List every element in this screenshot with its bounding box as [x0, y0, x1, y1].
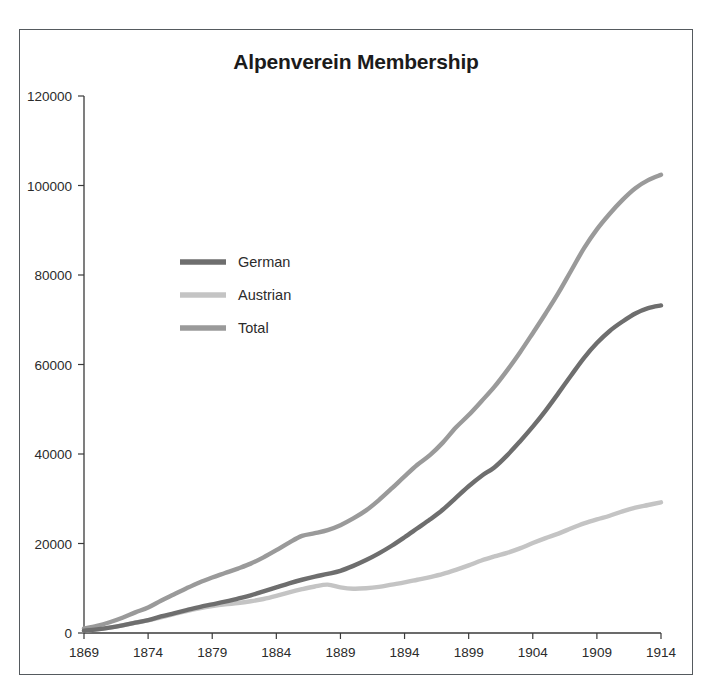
x-tick-label: 1909 [582, 645, 612, 660]
x-tick-label: 1874 [133, 645, 164, 660]
y-tick-label: 120000 [27, 89, 72, 104]
x-axis-ticks: 1869187418791884188918941899190419091914 [69, 633, 677, 660]
axes [84, 96, 661, 633]
chart-legend: GermanAustrianTotal [180, 254, 291, 336]
x-tick-label: 1884 [261, 645, 292, 660]
x-tick-label: 1879 [197, 645, 227, 660]
x-tick-label: 1914 [646, 645, 677, 660]
y-tick-label: 40000 [34, 447, 72, 462]
legend-label-german: German [238, 254, 290, 270]
series-line-austrian [84, 502, 661, 630]
x-tick-label: 1869 [69, 645, 99, 660]
y-tick-label: 20000 [34, 537, 72, 552]
x-tick-label: 1899 [454, 645, 484, 660]
data-series-group [84, 175, 661, 631]
legend-label-total: Total [238, 320, 269, 336]
chart-figure-frame: Alpenverein Membership 02000040000600008… [19, 29, 693, 675]
x-tick-label: 1904 [518, 645, 549, 660]
y-tick-label: 0 [64, 626, 72, 641]
y-tick-label: 60000 [34, 358, 72, 373]
x-tick-label: 1894 [390, 645, 421, 660]
chart-plot-area: 020000400006000080000100000120000 186918… [20, 30, 694, 676]
y-tick-label: 100000 [27, 179, 72, 194]
legend-label-austrian: Austrian [238, 287, 291, 303]
x-tick-label: 1889 [325, 645, 355, 660]
y-tick-label: 80000 [34, 268, 72, 283]
y-axis-ticks: 020000400006000080000100000120000 [27, 89, 84, 641]
series-line-german [84, 305, 661, 630]
series-line-total [84, 175, 661, 629]
